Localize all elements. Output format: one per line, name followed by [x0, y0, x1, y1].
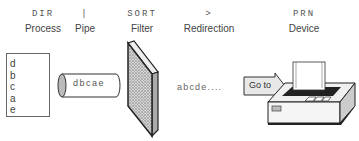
filter-slab-icon [128, 41, 158, 136]
goto-label: Go to [249, 80, 271, 90]
pipe-content-text: dbcae [73, 78, 105, 88]
printer-icon [268, 62, 355, 125]
diagram-graphics [0, 0, 359, 141]
filter-output-text: abcde.... [177, 82, 222, 92]
